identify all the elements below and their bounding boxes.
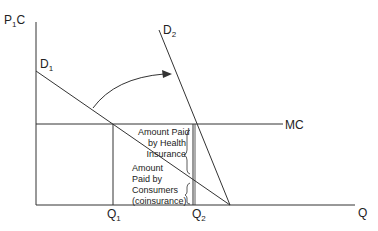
y-axis-label: P1C xyxy=(4,14,25,31)
x-axis-label: Q xyxy=(358,207,367,219)
q2-label: Q2 xyxy=(192,208,206,225)
consumers-annotation: Amount Paid by Consumers (coinsurance) xyxy=(132,163,187,207)
q1-label: Q1 xyxy=(107,208,121,225)
d2-label: D2 xyxy=(163,24,176,41)
mc-label: MC xyxy=(285,119,304,131)
d1-label: D1 xyxy=(40,58,53,75)
shift-arrow-icon xyxy=(93,74,164,108)
insurance-annotation: Amount Paid by Health Insurance xyxy=(144,127,186,160)
diagram-canvas xyxy=(0,0,378,231)
